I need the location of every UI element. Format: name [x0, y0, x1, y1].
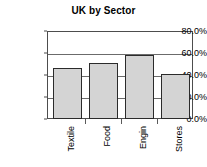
- x-label-stores: Stores: [174, 126, 184, 152]
- x-tick-mark: [85, 119, 86, 124]
- bar-stores[interactable]: [161, 74, 190, 119]
- x-tick-mark: [157, 119, 158, 124]
- x-label-textile: Textile: [66, 126, 76, 152]
- x-label-food: Food: [102, 126, 112, 147]
- bar-chart: UK by Sector 0.0% 20.0% 40.0% 60.0% 80.0…: [0, 0, 207, 167]
- bar-slot: [125, 31, 154, 119]
- bar-slot: [89, 31, 118, 119]
- bar-slot: [161, 31, 190, 119]
- x-label-engin: Engin: [138, 126, 148, 149]
- bar-textile[interactable]: [53, 68, 82, 119]
- chart-title: UK by Sector: [0, 5, 207, 16]
- bar-engin[interactable]: [125, 55, 154, 119]
- x-tick-mark: [121, 119, 122, 124]
- bar-food[interactable]: [89, 63, 118, 119]
- bar-series: [47, 31, 193, 119]
- bar-slot: [53, 31, 82, 119]
